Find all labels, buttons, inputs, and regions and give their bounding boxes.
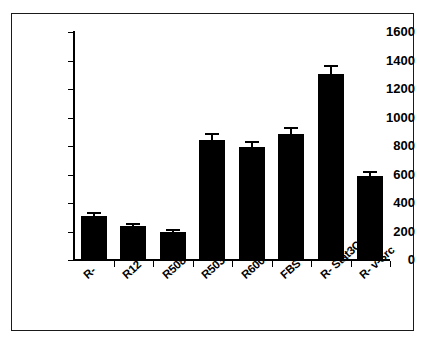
bar-group — [239, 32, 265, 260]
y-axis-tick-mark — [68, 203, 74, 204]
y-axis-tick-mark — [68, 232, 74, 233]
x-axis-tick-mark — [114, 261, 115, 267]
bar — [278, 134, 304, 260]
figure-root: 02004006008001000120014001600 R-R12R508R… — [0, 0, 429, 347]
x-axis-tick-mark — [153, 261, 154, 267]
y-axis-tick-mark — [68, 89, 74, 90]
y-axis-tick-mark — [68, 32, 74, 33]
error-bar-stem — [93, 214, 95, 216]
bar — [239, 147, 265, 260]
bar-group — [278, 32, 304, 260]
figure-border-frame: 02004006008001000120014001600 R-R12R508R… — [11, 13, 414, 331]
bar-group — [160, 32, 186, 260]
plot-area: 02004006008001000120014001600 R-R12R508R… — [12, 14, 415, 332]
error-bar-stem — [369, 173, 371, 176]
error-bar-stem — [251, 143, 253, 147]
y-axis-tick-mark — [68, 61, 74, 62]
bar-group — [81, 32, 107, 260]
error-bar-cap — [363, 171, 377, 173]
x-axis-tick-mark — [351, 261, 352, 267]
bar — [318, 74, 344, 260]
x-axis-tick-mark — [390, 261, 391, 267]
y-axis-tick-mark — [68, 118, 74, 119]
y-axis-tick-mark — [68, 175, 74, 176]
error-bar-cap — [205, 133, 219, 135]
bar-group — [357, 32, 383, 260]
x-axis-tick-label: R12 — [120, 258, 143, 281]
error-bar-stem — [172, 231, 174, 232]
bar-group — [120, 32, 146, 260]
bar — [81, 216, 107, 260]
x-axis-tick-mark — [193, 261, 194, 267]
x-axis-tick-mark — [232, 261, 233, 267]
x-axis-tick-mark — [311, 261, 312, 267]
error-bar-cap — [284, 127, 298, 129]
bar-group — [199, 32, 225, 260]
error-bar-cap — [245, 141, 259, 143]
error-bar-stem — [290, 129, 292, 134]
bar — [199, 140, 225, 260]
error-bar-cap — [87, 212, 101, 214]
error-bar-stem — [330, 67, 332, 74]
bar-group — [318, 32, 344, 260]
y-axis-tick-mark — [68, 260, 74, 261]
x-axis-tick-mark — [272, 261, 273, 267]
error-bar-stem — [132, 225, 134, 226]
error-bar-cap — [166, 229, 180, 231]
y-axis-tick-mark — [68, 146, 74, 147]
x-axis-tick-label: R- — [81, 264, 98, 281]
error-bar-cap — [126, 223, 140, 225]
bar — [120, 226, 146, 260]
error-bar-stem — [211, 135, 213, 140]
error-bar-cap — [324, 65, 338, 67]
